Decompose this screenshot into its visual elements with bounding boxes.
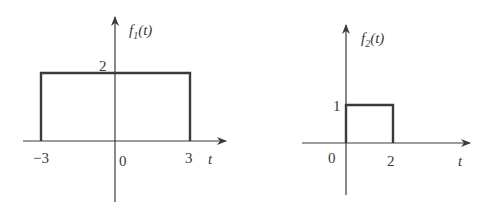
figure: f1(t) 2 −3 0 3 t f2(t) 1 0 2 t (0, 0, 492, 210)
x-axis-label-f1: t (208, 151, 213, 167)
y-axis-label-f2: f2(t) (361, 30, 384, 49)
x-tick-2: 2 (387, 153, 395, 169)
y-tick-1: 1 (333, 98, 341, 114)
pulse-f2 (346, 105, 393, 143)
x-tick-3: 3 (185, 150, 193, 166)
y-axis-label-f1: f1(t) (129, 22, 152, 41)
x-tick-0: 0 (119, 153, 127, 169)
x-tick-0: 0 (328, 150, 336, 166)
plot-f2: f2(t) 1 0 2 t (302, 25, 470, 195)
x-tick-neg3: −3 (33, 150, 49, 166)
plot-f1: f1(t) 2 −3 0 3 t (23, 17, 226, 202)
x-axis-label-f2: t (458, 153, 463, 169)
y-tick-2: 2 (99, 58, 107, 74)
